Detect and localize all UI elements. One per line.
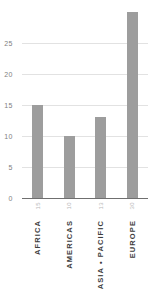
category-axis: 15AFRICA10AMERICAS13ASIA • PACIFIC30EURO… [22, 200, 148, 295]
bar-value-label: 15 [27, 202, 49, 218]
category-label: EUROPE [121, 220, 143, 294]
bar [95, 117, 106, 198]
y-axis-tick-label: 20 [0, 71, 13, 78]
bar-value-label: 13 [90, 202, 112, 218]
y-axis-tick-label: 25 [0, 40, 13, 47]
bar-value-label: 30 [121, 202, 143, 218]
plot-area: 0510152025 [22, 12, 148, 198]
category-label: AMERICAS [58, 220, 80, 294]
axis-baseline [22, 198, 148, 199]
bar-value-label-text: 30 [129, 202, 135, 209]
bar-value-label-text: 15 [35, 202, 41, 209]
bar-value-label-text: 13 [98, 202, 104, 209]
category-tick-group: 10AMERICAS [58, 200, 80, 295]
category-label-text: ASIA • PACIFIC [96, 220, 105, 289]
category-label-text: AMERICAS [65, 220, 74, 269]
y-axis-tick-label: 15 [0, 102, 13, 109]
bar-value-label-text: 10 [66, 202, 72, 209]
bar [32, 105, 43, 198]
category-label-text: EUROPE [128, 220, 137, 258]
bar [127, 12, 138, 198]
category-label: ASIA • PACIFIC [90, 220, 112, 294]
category-tick-group: 30EUROPE [121, 200, 143, 295]
category-label-text: AFRICA [33, 220, 42, 255]
y-axis-tick-label: 10 [0, 133, 13, 140]
bar-chart: 0510152025 15AFRICA10AMERICAS13ASIA • PA… [0, 0, 153, 295]
category-label: AFRICA [27, 220, 49, 294]
category-tick-group: 13ASIA • PACIFIC [90, 200, 112, 295]
category-tick-group: 15AFRICA [27, 200, 49, 295]
y-axis-tick-label: 0 [0, 195, 13, 202]
y-axis-tick-label: 5 [0, 164, 13, 171]
bar [64, 136, 75, 198]
bar-value-label: 10 [58, 202, 80, 218]
